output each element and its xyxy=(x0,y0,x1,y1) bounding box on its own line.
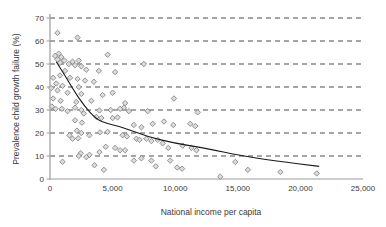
data-point xyxy=(314,171,319,176)
data-point xyxy=(76,58,81,63)
y-tick-label: 30 xyxy=(35,106,44,115)
data-point xyxy=(145,108,150,113)
data-point xyxy=(72,118,77,123)
data-point xyxy=(55,30,60,35)
data-point xyxy=(160,141,165,146)
data-point xyxy=(110,90,115,95)
data-point xyxy=(193,123,198,128)
y-tick-label: 10 xyxy=(35,152,44,161)
data-point xyxy=(57,73,62,78)
data-point xyxy=(74,99,79,104)
data-point xyxy=(179,166,184,171)
data-point xyxy=(122,100,127,105)
y-axis-title: Prevalence child growth failure (%) xyxy=(11,33,21,164)
data-point xyxy=(110,115,115,120)
trend-curve xyxy=(56,62,319,167)
x-axis-title: National income per capita xyxy=(161,207,262,217)
data-point xyxy=(75,136,80,141)
data-point xyxy=(126,108,131,113)
data-point xyxy=(91,79,96,84)
data-point xyxy=(161,119,166,124)
data-point xyxy=(65,90,70,95)
data-point xyxy=(101,167,106,172)
data-point xyxy=(174,165,179,170)
data-point xyxy=(75,35,80,40)
data-point xyxy=(54,81,59,86)
y-tick-label: 50 xyxy=(35,60,44,69)
data-point xyxy=(131,158,136,163)
x-tick-label: 25,000 xyxy=(351,184,376,193)
data-point xyxy=(171,96,176,101)
data-point xyxy=(79,91,84,96)
data-point xyxy=(49,85,54,90)
x-tick-label: 15,000 xyxy=(226,184,251,193)
y-tick-label: 20 xyxy=(35,129,44,138)
data-point xyxy=(171,122,176,127)
x-tick-label: 20,000 xyxy=(288,184,313,193)
data-point xyxy=(112,69,117,74)
chart-figure: 01020304050607005,00010,00015,00020,0002… xyxy=(0,0,386,227)
data-point xyxy=(105,129,110,134)
data-point xyxy=(97,149,102,154)
data-point xyxy=(149,158,154,163)
data-point xyxy=(115,115,120,120)
scatter-plot: 01020304050607005,00010,00015,00020,0002… xyxy=(0,0,386,227)
x-tick-label: 10,000 xyxy=(163,184,188,193)
data-point xyxy=(76,84,81,89)
data-point xyxy=(60,83,65,88)
data-point xyxy=(103,144,108,149)
data-point xyxy=(60,159,65,164)
data-point xyxy=(149,138,154,143)
data-point xyxy=(122,148,127,153)
data-point xyxy=(82,78,87,83)
data-point xyxy=(150,121,155,126)
data-point xyxy=(245,167,250,172)
data-point xyxy=(167,158,172,163)
y-tick-label: 60 xyxy=(35,37,44,46)
data-point xyxy=(67,75,72,80)
data-point xyxy=(141,61,146,66)
data-point xyxy=(58,98,63,103)
data-point xyxy=(75,76,80,81)
data-point xyxy=(112,145,117,150)
data-point xyxy=(96,68,101,73)
data-point xyxy=(105,52,110,57)
data-point xyxy=(79,120,84,125)
data-point xyxy=(59,106,64,111)
data-point xyxy=(233,159,238,164)
data-point xyxy=(139,125,144,130)
data-point xyxy=(84,67,89,72)
data-point xyxy=(108,107,113,112)
data-point xyxy=(89,98,94,103)
data-point xyxy=(166,145,171,150)
data-point xyxy=(97,130,102,135)
y-tick-label: 70 xyxy=(35,14,44,23)
data-point xyxy=(153,164,158,169)
data-point xyxy=(100,92,105,97)
x-tick-label: 0 xyxy=(48,184,53,193)
data-point xyxy=(65,108,70,113)
data-point xyxy=(97,108,102,113)
data-point xyxy=(50,75,55,80)
h-gridlines xyxy=(50,18,363,156)
data-point xyxy=(55,88,60,93)
y-tick-label: 40 xyxy=(35,83,44,92)
data-point xyxy=(194,148,199,153)
trend-line xyxy=(56,62,319,167)
data-point xyxy=(278,169,283,174)
data-point xyxy=(50,96,55,101)
data-point xyxy=(188,121,193,126)
data-point xyxy=(72,105,77,110)
axes xyxy=(47,14,364,180)
data-point xyxy=(131,122,136,127)
data-point xyxy=(92,163,97,168)
x-tick-label: 5,000 xyxy=(103,184,124,193)
scatter-points xyxy=(49,30,320,179)
y-tick-label: 0 xyxy=(40,175,45,184)
